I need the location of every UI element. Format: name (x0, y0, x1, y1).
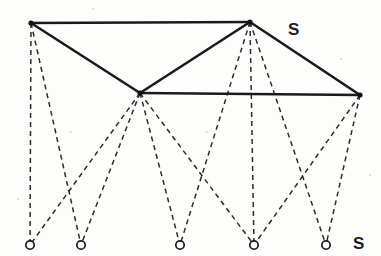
solid-edge-group (31, 22, 360, 95)
solid-edge-n2-n3 (140, 22, 250, 93)
dashed-edge-n2-c1 (30, 93, 140, 245)
paper-speck-4 (206, 131, 208, 133)
middle-node (137, 90, 142, 95)
dashed-edge-n3-c4 (250, 22, 254, 245)
terminal-node-group (26, 241, 330, 249)
dashed-edge-n3-c3 (180, 22, 250, 245)
paper-speck-6 (17, 198, 19, 200)
paper-speck-1 (340, 58, 342, 60)
figure-canvas: S S (0, 0, 381, 256)
apex-node (247, 19, 252, 24)
dashed-edge-n2-c4 (140, 93, 254, 245)
paper-speck-3 (92, 8, 94, 10)
graph-svg (0, 0, 381, 256)
dashed-edge-n1-c2 (31, 23, 81, 245)
terminal-node-5 (322, 241, 330, 249)
right-node (357, 92, 362, 97)
terminal-node-4 (250, 241, 258, 249)
terminal-node-3 (176, 241, 184, 249)
paper-speck-5 (70, 131, 72, 133)
solid-edge-n2-n4 (140, 93, 360, 95)
dashed-edge-n2-c2 (81, 93, 140, 245)
dashed-edge-n2-c3 (140, 93, 180, 245)
dashed-edge-n3-c5 (250, 22, 326, 245)
solid-edge-n1-n3 (31, 22, 250, 23)
top-left-node (28, 20, 33, 25)
label-upper-right: S (288, 21, 299, 38)
solid-edge-n1-n2 (31, 23, 140, 93)
paper-speck-2 (369, 174, 371, 176)
terminal-node-1 (26, 241, 34, 249)
dashed-edge-n4-c4 (254, 95, 360, 245)
terminal-node-2 (77, 241, 85, 249)
solid-edge-n3-n4 (250, 22, 360, 95)
label-lower-right: S (353, 235, 364, 252)
dashed-edge-n4-c5 (326, 95, 360, 245)
dashed-edge-n1-c1 (30, 23, 31, 245)
